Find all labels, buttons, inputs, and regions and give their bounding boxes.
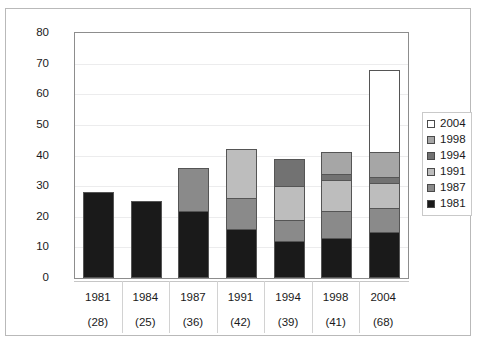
x-axis-category: 1991(42): [217, 281, 265, 328]
y-axis-tick-label: 30: [9, 180, 49, 192]
x-axis-labels: 1981(28)1984(25)1987(36)1991(42)1994(39)…: [74, 281, 409, 333]
y-axis-tick-label: 70: [9, 58, 49, 70]
x-axis-separator: [359, 281, 360, 333]
x-axis-category: 1998(41): [312, 281, 360, 328]
x-axis-year-label: 1998: [312, 291, 360, 303]
bar-segment[interactable]: [178, 168, 209, 211]
legend-item[interactable]: 1981: [427, 196, 466, 212]
legend-swatch-icon: [427, 120, 435, 128]
x-axis-separator: [122, 281, 123, 333]
x-axis-year-label: 1991: [217, 291, 265, 303]
x-axis-category: 1984(25): [122, 281, 170, 328]
bar-segment[interactable]: [83, 192, 114, 278]
bar-segment[interactable]: [369, 152, 400, 177]
y-axis-tick-label: 80: [9, 27, 49, 39]
bar-segment[interactable]: [369, 232, 400, 278]
bar-segment[interactable]: [178, 211, 209, 278]
y-axis-tick-label: 60: [9, 89, 49, 101]
legend-swatch-icon: [427, 168, 435, 176]
bar-segment[interactable]: [274, 220, 305, 241]
bar-segment[interactable]: [369, 208, 400, 233]
chart-frame: 1981(28)1984(25)1987(36)1991(42)1994(39)…: [5, 8, 471, 336]
gridline: [75, 125, 408, 126]
bar-segment[interactable]: [321, 180, 352, 211]
bar-segment[interactable]: [131, 201, 162, 278]
x-axis-category: 1994(39): [264, 281, 312, 328]
bar-stack[interactable]: [83, 192, 114, 278]
x-axis-year-label: 1984: [122, 291, 170, 303]
x-axis-year-label: 1994: [264, 291, 312, 303]
legend-item-label: 1994: [440, 150, 466, 162]
bar-segment[interactable]: [274, 159, 305, 187]
x-axis-year-label: 1987: [169, 291, 217, 303]
bar-segment[interactable]: [226, 198, 257, 229]
bar-segment[interactable]: [226, 149, 257, 198]
legend-swatch-icon: [427, 152, 435, 160]
x-axis-separator: [217, 281, 218, 333]
y-axis-tick-label: 40: [9, 150, 49, 162]
bar-segment[interactable]: [321, 211, 352, 239]
x-axis-total-label: (41): [312, 316, 360, 328]
bar-stack[interactable]: [178, 168, 209, 278]
x-axis-year-label: 1981: [74, 291, 122, 303]
bar-segment[interactable]: [369, 70, 400, 153]
legend-item-label: 2004: [440, 118, 466, 130]
legend-item-label: 1991: [440, 166, 466, 178]
gridline: [75, 64, 408, 65]
plot-area: [74, 32, 409, 279]
x-axis-year-label: 2004: [359, 291, 407, 303]
legend-item[interactable]: 1994: [427, 148, 466, 164]
bar-segment[interactable]: [321, 238, 352, 278]
x-axis-separator: [264, 281, 265, 333]
bar-segment[interactable]: [321, 152, 352, 173]
x-axis-total-label: (42): [217, 316, 265, 328]
x-axis-category: 1987(36): [169, 281, 217, 328]
gridline: [75, 94, 408, 95]
legend-item[interactable]: 1991: [427, 164, 466, 180]
legend-item-label: 1981: [440, 198, 466, 210]
x-axis-separator: [169, 281, 170, 333]
legend-item-label: 1987: [440, 182, 466, 194]
legend-item-label: 1998: [440, 134, 466, 146]
x-axis-category: 1981(28): [74, 281, 122, 328]
bar-stack[interactable]: [274, 159, 305, 278]
x-axis-total-label: (68): [359, 316, 407, 328]
y-axis-tick-label: 10: [9, 242, 49, 254]
bar-segment[interactable]: [274, 241, 305, 278]
legend-swatch-icon: [427, 200, 435, 208]
bar-stack[interactable]: [369, 70, 400, 278]
x-axis-total-label: (28): [74, 316, 122, 328]
legend-swatch-icon: [427, 184, 435, 192]
bar-stack[interactable]: [226, 149, 257, 278]
bar-segment[interactable]: [226, 229, 257, 278]
bar-stack[interactable]: [131, 201, 162, 278]
x-axis-separator: [312, 281, 313, 333]
legend-item[interactable]: 1987: [427, 180, 466, 196]
y-axis-tick-label: 0: [9, 272, 49, 284]
x-axis-total-label: (39): [264, 316, 312, 328]
x-axis-total-label: (25): [122, 316, 170, 328]
chart-legend: 200419981994199119871981: [422, 112, 472, 216]
x-axis-category: 2004(68): [359, 281, 407, 328]
legend-swatch-icon: [427, 136, 435, 144]
y-axis-tick-label: 20: [9, 211, 49, 223]
x-axis-total-label: (36): [169, 316, 217, 328]
bar-segment[interactable]: [369, 183, 400, 208]
y-axis-tick-label: 50: [9, 119, 49, 131]
legend-item[interactable]: 2004: [427, 116, 466, 132]
bar-segment[interactable]: [274, 186, 305, 220]
legend-item[interactable]: 1998: [427, 132, 466, 148]
bar-stack[interactable]: [321, 152, 352, 278]
